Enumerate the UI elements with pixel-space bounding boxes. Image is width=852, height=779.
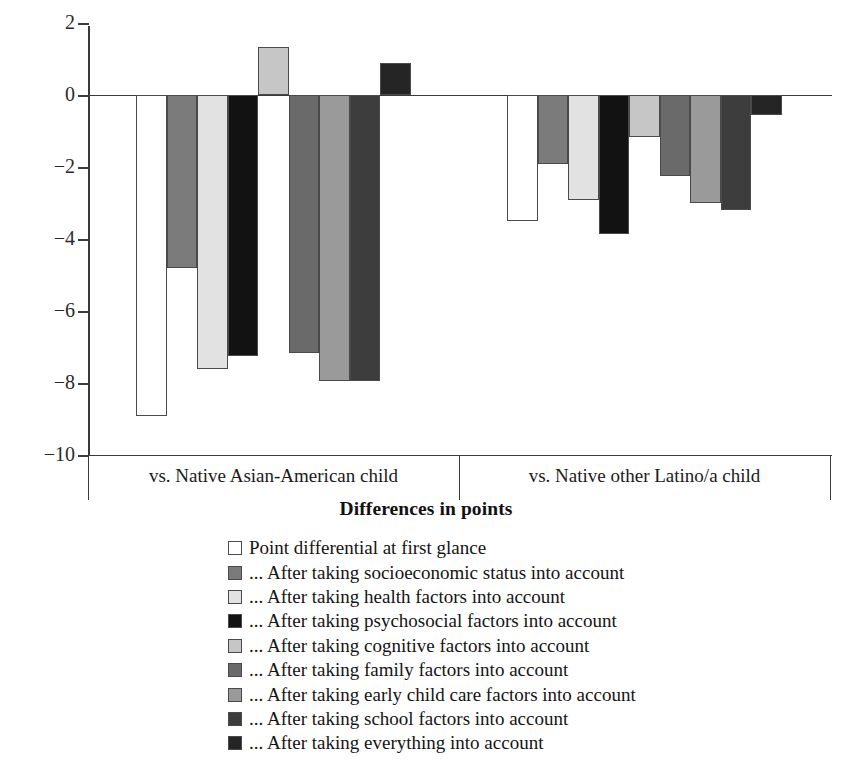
bar [538, 95, 569, 163]
bar [568, 95, 599, 199]
y-tick-label: 0 [27, 84, 75, 104]
bar [721, 95, 752, 210]
bar [319, 95, 350, 381]
chart-figure: 20−2−4−6−8−10 vs. Native Asian-American … [0, 0, 852, 779]
legend-label: ... After taking family factors into acc… [249, 659, 568, 681]
bar [258, 47, 289, 96]
legend-swatch-icon [228, 590, 242, 604]
bar [380, 63, 411, 95]
category-axis-tick-right [830, 455, 831, 500]
legend-label: ... After taking everything into account [249, 732, 543, 754]
legend-item[interactable]: ... After taking everything into account [228, 731, 748, 755]
x-axis-title: Differences in points [0, 498, 852, 520]
legend-label: ... After taking school factors into acc… [249, 708, 568, 730]
bar-series-container [88, 0, 832, 470]
bar [660, 95, 691, 176]
category-label-other-latino: vs. Native other Latino/a child [459, 464, 830, 488]
legend-swatch-icon [228, 639, 242, 653]
bar [690, 95, 721, 203]
category-axis: vs. Native Asian-American child vs. Nati… [88, 455, 832, 500]
category-label-asian-american: vs. Native Asian-American child [88, 464, 459, 488]
legend-label: ... After taking psychosocial factors in… [249, 610, 617, 632]
y-tick-label: −8 [27, 372, 75, 392]
legend-swatch-icon [228, 688, 242, 702]
bar [197, 95, 228, 369]
legend-label: ... After taking health factors into acc… [249, 586, 565, 608]
bar [599, 95, 630, 234]
legend-swatch-icon [228, 736, 242, 750]
plot-area: 20−2−4−6−8−10 [0, 0, 852, 470]
legend-swatch-icon [228, 712, 242, 726]
bar [289, 95, 320, 352]
legend-item[interactable]: Point differential at first glance [228, 536, 748, 560]
legend-swatch-icon [228, 566, 242, 580]
legend-item[interactable]: ... After taking family factors into acc… [228, 658, 748, 682]
bar [751, 95, 782, 115]
bar [228, 95, 259, 356]
legend-label: ... After taking socioeconomic status in… [249, 562, 624, 584]
y-tick-label: −6 [27, 300, 75, 320]
legend-item[interactable]: ... After taking cognitive factors into … [228, 634, 748, 658]
legend-label: ... After taking cognitive factors into … [249, 635, 589, 657]
bar [629, 95, 660, 136]
bar [507, 95, 538, 221]
bar [350, 95, 381, 381]
legend-item[interactable]: ... After taking psychosocial factors in… [228, 609, 748, 633]
legend: Point differential at first glance... Af… [228, 536, 748, 756]
bar [136, 95, 167, 415]
y-tick-label: 2 [27, 12, 75, 32]
y-tick-label: −2 [27, 156, 75, 176]
legend-swatch-icon [228, 663, 242, 677]
legend-item[interactable]: ... After taking school factors into acc… [228, 707, 748, 731]
bar [167, 95, 198, 268]
legend-swatch-icon [228, 614, 242, 628]
legend-swatch-icon [228, 541, 242, 555]
legend-label: Point differential at first glance [249, 537, 486, 559]
legend-label: ... After taking early child care factor… [249, 684, 636, 706]
y-tick-label: −10 [27, 444, 75, 464]
legend-item[interactable]: ... After taking socioeconomic status in… [228, 560, 748, 584]
legend-item[interactable]: ... After taking early child care factor… [228, 682, 748, 706]
legend-item[interactable]: ... After taking health factors into acc… [228, 585, 748, 609]
y-tick-label: −4 [27, 228, 75, 248]
